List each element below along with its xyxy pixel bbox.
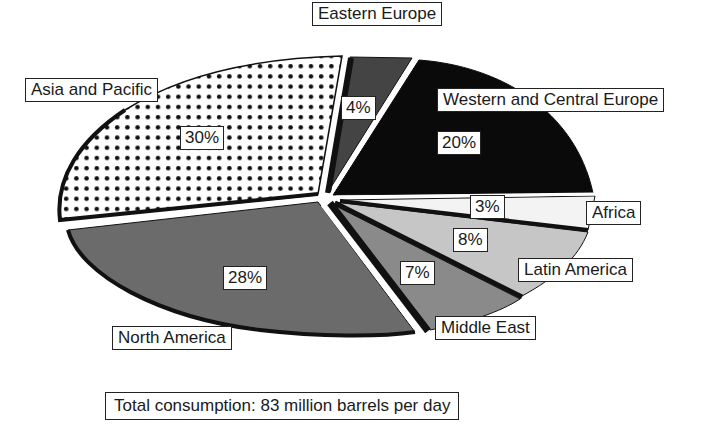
pct-africa: 3% <box>470 195 505 219</box>
pct-latin-america: 8% <box>453 228 488 252</box>
label-eastern-europe: Eastern Europe <box>312 2 442 26</box>
label-western-central-europe: Western and Central Europe <box>437 88 664 112</box>
pct-north-america: 28% <box>223 266 267 290</box>
total-consumption-note: Total consumption: 83 million barrels pe… <box>105 392 459 420</box>
label-middle-east: Middle East <box>435 316 536 340</box>
label-north-america: North America <box>112 326 232 350</box>
label-latin-america: Latin America <box>518 258 633 282</box>
pct-eastern-europe: 4% <box>341 96 376 120</box>
label-africa: Africa <box>586 201 641 225</box>
pct-asia-pacific: 30% <box>180 126 224 150</box>
label-asia-pacific: Asia and Pacific <box>25 78 158 102</box>
pct-middle-east: 7% <box>400 261 435 285</box>
pct-western-central-europe: 20% <box>437 131 481 155</box>
